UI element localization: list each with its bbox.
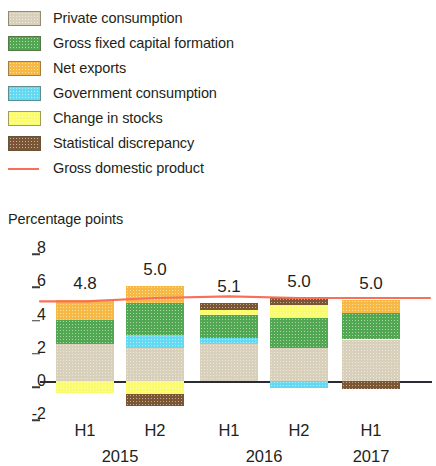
bar-segment [342, 313, 400, 340]
legend-item[interactable]: Net exports [8, 56, 428, 81]
legend-line-mark [8, 168, 39, 170]
legend-item-label: Private consumption [53, 11, 182, 26]
square-swatch-icon [8, 86, 41, 101]
legend-item[interactable]: Change in stocks [8, 106, 428, 131]
bar-segment [270, 318, 328, 348]
square-swatch-icon [8, 11, 41, 26]
bar-segment [342, 381, 400, 389]
legend-item-label: Government consumption [53, 86, 217, 101]
square-swatch-icon [8, 36, 41, 51]
bar-segment [342, 340, 400, 382]
legend-item[interactable]: Gross domestic product [8, 156, 428, 181]
bar-value-label: 5.1 [200, 277, 258, 297]
bar-segment [200, 338, 258, 345]
y-tick-mark [32, 287, 40, 289]
x-period-label: H1 [56, 421, 114, 440]
square-swatch-icon [8, 111, 41, 126]
bar-segment [200, 303, 258, 310]
y-tick-mark [32, 419, 40, 421]
bar-segment [126, 286, 184, 303]
bar-segment [126, 348, 184, 381]
y-axis: 86420-2 [0, 240, 46, 466]
legend-item[interactable]: Statistical discrepancy [8, 131, 428, 156]
legend-item[interactable]: Government consumption [8, 81, 428, 106]
bar-value-label: 5.0 [270, 272, 328, 292]
bar-segment [56, 320, 114, 345]
square-swatch-icon [8, 61, 41, 76]
bar-segment [270, 348, 328, 381]
line-swatch-icon [8, 161, 41, 176]
x-year-label: 2016 [200, 447, 328, 466]
legend-item[interactable]: Gross fixed capital formation [8, 31, 428, 56]
bar-segment [342, 300, 400, 313]
legend-item-label: Change in stocks [53, 111, 163, 126]
x-period-label: H2 [126, 421, 184, 440]
bar-segment [56, 300, 114, 320]
bar-segment [126, 381, 184, 394]
bar-segment [126, 394, 184, 406]
bar-value-label: 4.8 [56, 274, 114, 294]
y-axis-title: Percentage points [8, 211, 123, 227]
bar-value-label: 5.0 [126, 260, 184, 280]
x-year-label: 2015 [56, 447, 184, 466]
y-tick-mark [32, 386, 40, 388]
bar-segment [270, 298, 328, 305]
y-tick-mark [32, 320, 40, 322]
legend-item-label: Gross domestic product [53, 161, 204, 176]
bar-segment [270, 381, 328, 388]
chart-legend: Private consumptionGross fixed capital f… [8, 6, 428, 181]
bar-segment [126, 303, 184, 335]
x-period-label: H1 [200, 421, 258, 440]
bar-value-label: 5.0 [342, 274, 400, 294]
legend-item-label: Net exports [53, 61, 126, 76]
bar-segment [126, 335, 184, 348]
bar-segment [270, 305, 328, 318]
legend-item[interactable]: Private consumption [8, 6, 428, 31]
legend-item-label: Statistical discrepancy [53, 136, 194, 151]
x-period-label: H2 [270, 421, 328, 440]
x-year-label: 2017 [342, 447, 400, 466]
legend-item-label: Gross fixed capital formation [53, 36, 234, 51]
y-tick-mark [32, 253, 40, 255]
chart-plot-area: 86420-2 4.85.05.15.05.0 H1H2H1H2H1201520… [0, 240, 436, 466]
y-tick-mark [32, 353, 40, 355]
bar-segment [56, 344, 114, 381]
x-period-label: H1 [342, 421, 400, 440]
bar-segment [200, 344, 258, 381]
bar-segment [56, 381, 114, 393]
square-swatch-icon [8, 136, 41, 151]
bar-segment [200, 315, 258, 338]
